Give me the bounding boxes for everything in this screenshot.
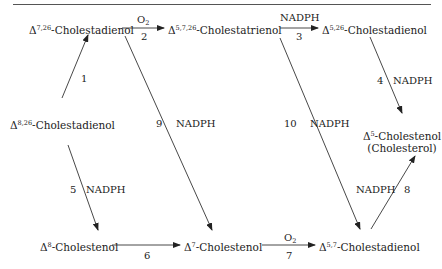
position-superscript: 5,7	[327, 241, 337, 249]
arrow-9	[125, 36, 212, 230]
delta-symbol: Δ	[168, 24, 176, 36]
cofactor-9: NADPH	[176, 118, 215, 129]
cofactor-text: O	[137, 14, 145, 25]
node-name: -Cholestadienol	[337, 241, 420, 253]
step-number-1: 1	[81, 73, 87, 84]
cofactor-subscript: 2	[145, 19, 149, 27]
step-number-2: 2	[141, 31, 147, 42]
cofactor-subscript: 2	[292, 237, 296, 245]
node-5-26-cholestadienol: Δ5,26-Cholestadienol	[322, 22, 427, 36]
node-8-26-cholestadienol: Δ8,26-Cholestadienol	[10, 117, 115, 131]
position-superscript: 8,26	[18, 119, 32, 127]
step-number-7: 7	[286, 250, 292, 261]
cofactor-text: O	[284, 232, 292, 243]
node-name: -Cholestenol	[375, 130, 442, 142]
arrow-1	[62, 35, 88, 98]
step-number-3: 3	[296, 31, 302, 42]
position-superscript: 5,7,26	[176, 24, 197, 32]
delta-symbol: Δ	[322, 24, 330, 36]
step-number-9: 9	[156, 118, 162, 129]
step-number-8: 8	[404, 184, 410, 195]
cofactor-10: NADPH	[310, 118, 349, 129]
step-number-10: 10	[284, 118, 297, 129]
step-number-6: 6	[144, 250, 150, 261]
node-7-cholestenol: Δ7-Cholestenol	[184, 239, 262, 253]
delta-symbol: Δ	[10, 119, 18, 131]
delta-symbol: Δ	[29, 24, 37, 36]
position-superscript: 5,26	[330, 24, 344, 32]
node-name: -Cholestatrienol	[196, 24, 281, 36]
node-name: -Cholestenol	[52, 241, 119, 253]
node-8-cholestenol: Δ8-Cholestenol	[40, 239, 118, 253]
cofactor-5: NADPH	[86, 184, 125, 195]
node-name: -Cholestadienol	[32, 119, 115, 131]
cofactor-7: O2	[284, 232, 296, 247]
node-7-26-cholestadienol: Δ7,26-Cholestadienol	[29, 22, 134, 36]
delta-symbol: Δ	[319, 241, 327, 253]
arrow-10	[280, 38, 360, 229]
node-name: -Cholestadienol	[51, 24, 134, 36]
node-subtitle: (Cholesterol)	[362, 142, 442, 154]
cofactor-2: O2	[137, 14, 149, 29]
delta-symbol: Δ	[184, 241, 192, 253]
node-name: -Cholestadienol	[344, 24, 427, 36]
node-cholesterol: Δ5-Cholestenol (Cholesterol)	[362, 128, 442, 154]
step-number-5: 5	[70, 184, 76, 195]
cofactor-4: NADPH	[393, 75, 432, 86]
step-number-4: 4	[377, 75, 383, 86]
cofactor-8: NADPH	[356, 184, 395, 195]
position-superscript: 7,26	[37, 24, 51, 32]
node-5-7-26-cholestatrienol: Δ5,7,26-Cholestatrienol	[168, 22, 282, 36]
delta-symbol: Δ	[40, 241, 48, 253]
cofactor-3: NADPH	[280, 12, 319, 23]
node-name: -Cholestenol	[196, 241, 263, 253]
node-5-7-cholestadienol: Δ5,7-Cholestadienol	[319, 239, 420, 253]
